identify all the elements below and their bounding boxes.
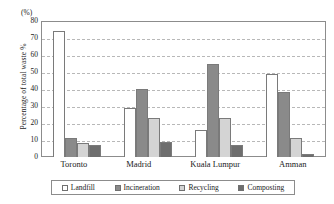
legend-item-label: Recycling bbox=[188, 183, 218, 192]
y-axis-tick-labels: 80706050403020100 bbox=[20, 21, 38, 157]
y-axis-tick-label: 0 bbox=[22, 153, 38, 161]
legend-item-label: Landfill bbox=[71, 183, 95, 192]
legend-item[interactable]: Recycling bbox=[179, 183, 218, 192]
plot-area bbox=[41, 21, 326, 157]
bar-chart: Percentage of total waste % (%) 80706050… bbox=[0, 0, 334, 204]
y-axis-tick-label: 60 bbox=[22, 51, 38, 59]
x-axis-tick-label: Madrid bbox=[126, 159, 151, 169]
x-axis-tick-label: Toronto bbox=[60, 159, 87, 169]
gridline bbox=[42, 73, 325, 74]
gridline bbox=[42, 124, 325, 125]
legend-item[interactable]: Landfill bbox=[62, 183, 95, 192]
x-axis-tick-labels: TorontoMadridKuala LumpurAmman bbox=[41, 159, 326, 169]
gridline bbox=[42, 107, 325, 108]
x-axis-tick-label: Amman bbox=[279, 159, 306, 169]
legend-swatch-icon bbox=[179, 185, 185, 191]
y-axis-tick-label: 30 bbox=[22, 102, 38, 110]
gridline bbox=[42, 90, 325, 91]
legend-item-label: Composting bbox=[247, 183, 284, 192]
legend-item-label: Incineration bbox=[124, 183, 160, 192]
legend-swatch-icon bbox=[62, 185, 68, 191]
x-axis-tick-label: Kuala Lumpur bbox=[190, 159, 240, 169]
legend-item[interactable]: Incineration bbox=[115, 183, 160, 192]
legend-item[interactable]: Composting bbox=[238, 183, 284, 192]
y-axis-tick-label: 40 bbox=[22, 85, 38, 93]
y-axis-tick-label: 80 bbox=[22, 17, 38, 25]
gridline bbox=[42, 39, 325, 40]
legend-swatch-icon bbox=[238, 185, 244, 191]
y-axis-tick-label: 20 bbox=[22, 119, 38, 127]
gridline bbox=[42, 141, 325, 142]
y-axis-tick-label: 50 bbox=[22, 68, 38, 76]
chart-legend: LandfillIncinerationRecyclingComposting bbox=[51, 180, 295, 195]
y-axis-tick-label: 70 bbox=[22, 34, 38, 42]
gridline bbox=[42, 56, 325, 57]
y-axis-tick-label: 10 bbox=[22, 136, 38, 144]
legend-swatch-icon bbox=[115, 185, 121, 191]
